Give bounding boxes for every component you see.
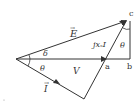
angle-arc-theta: [28, 59, 30, 66]
point-a: a: [105, 62, 110, 71]
vector-jxsI: [84, 21, 126, 99]
label-theta-top: θ: [120, 41, 125, 50]
label-E-arrow: →: [70, 24, 75, 31]
label-I-arrow: →: [44, 79, 49, 86]
point-c: c: [129, 9, 134, 18]
point-b: b: [127, 62, 132, 71]
phasor-diagram: E → jxₛI θ δ θ V I → a b c: [0, 0, 139, 111]
label-theta: θ: [40, 64, 45, 73]
angle-arc-delta: [29, 55, 30, 59]
label-jxsI: jxₛI: [91, 40, 107, 49]
label-delta: δ: [43, 49, 48, 58]
angle-arc-theta-top: [123, 28, 130, 29]
stray-dot: [3, 99, 4, 100]
label-V: V: [73, 66, 81, 76]
vector-I: [16, 59, 84, 99]
